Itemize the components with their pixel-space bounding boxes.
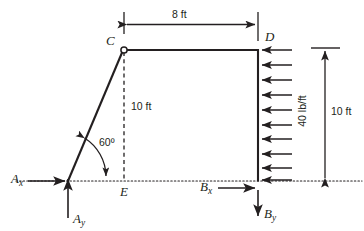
reaction-label-Ax-main: A [11, 171, 19, 186]
reaction-label-Bx: Bx [200, 179, 212, 196]
reaction-label-Ay-sub: y [81, 218, 85, 228]
joint-label-D: D [265, 29, 274, 45]
angle-label-60: 60º [99, 136, 115, 148]
diagram-vector-layer [0, 0, 364, 231]
figure-canvas: 8 ft 10 ft 10 ft 40 lb/ft 60º C D E Ax A… [0, 0, 364, 231]
member-AC [68, 52, 123, 182]
dimension-label-right-10ft: 10 ft [331, 105, 351, 117]
reaction-label-Ax-sub: x [19, 178, 23, 188]
joint-label-E: E [120, 184, 128, 200]
distributed-load-arrows [262, 50, 292, 180]
dimension-label-inner-10ft: 10 ft [131, 100, 151, 112]
pin-joint-C [121, 47, 127, 53]
joint-label-C: C [106, 33, 115, 49]
reaction-label-By-sub: y [272, 213, 276, 223]
reaction-label-By-main: B [264, 206, 272, 221]
reaction-label-Ay: Ay [73, 211, 85, 228]
dimension-label-8ft: 8 ft [172, 8, 187, 20]
reaction-label-Ax: Ax [11, 171, 23, 188]
reaction-label-By: By [264, 206, 276, 223]
reaction-label-Bx-main: B [200, 179, 208, 194]
distributed-load-label: 40 lb/ft [296, 88, 308, 134]
reaction-label-Ay-main: A [73, 211, 81, 226]
reaction-label-Bx-sub: x [208, 186, 212, 196]
